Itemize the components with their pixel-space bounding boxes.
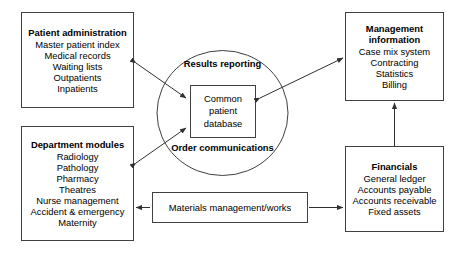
list-item: Billing	[382, 79, 407, 90]
financials-node[interactable]: Financials General ledger Accounts payab…	[345, 146, 444, 232]
list-item: Nurse management	[36, 195, 118, 206]
patient-administration-list: Master patient index Medical records Wai…	[35, 39, 119, 94]
patient-administration-node[interactable]: Patient administration Master patient in…	[21, 12, 134, 108]
department-modules-list: Radiology Pathology Pharmacy Theatres Nu…	[31, 151, 125, 228]
database-line-1: Common	[204, 93, 242, 105]
list-item: Pharmacy	[56, 173, 98, 184]
results-reporting-label: Results reporting	[157, 58, 288, 69]
financials-title: Financials	[372, 161, 418, 172]
list-item: Pathology	[57, 162, 99, 173]
list-item: Accounts receivable	[353, 195, 437, 206]
list-item: Maternity	[58, 217, 97, 228]
list-item: General ledger	[363, 173, 425, 184]
management-information-list: Case mix system Contracting Statistics B…	[359, 46, 430, 90]
list-item: Fixed assets	[368, 206, 421, 217]
common-patient-database-node[interactable]: Common patient database	[190, 85, 256, 138]
list-item: Inpatients	[57, 83, 98, 94]
list-item: Statistics	[376, 68, 414, 79]
list-item: Theatres	[59, 184, 96, 195]
list-item: Outpatients	[54, 72, 102, 83]
list-item: Medical records	[44, 50, 110, 61]
list-item: Radiology	[57, 151, 99, 162]
database-line-2: patient	[209, 105, 237, 117]
materials-management-node[interactable]: Materials management/works	[152, 192, 308, 223]
management-information-title-line2: information	[369, 34, 421, 45]
patient-administration-title: Patient administration	[28, 27, 126, 38]
materials-management-title: Materials management/works	[169, 202, 291, 213]
list-item: Accounts payable	[357, 184, 431, 195]
list-item: Contracting	[371, 57, 419, 68]
hospital-system-diagram: Patient administration Master patient in…	[0, 0, 462, 255]
list-item: Accident & emergency	[31, 206, 125, 217]
management-information-title-line1: Management	[366, 23, 423, 34]
database-line-3: database	[204, 118, 243, 130]
department-modules-title: Department modules	[31, 139, 124, 150]
financials-list: General ledger Accounts payable Accounts…	[353, 173, 437, 217]
order-communications-label: Order communications	[152, 142, 293, 153]
list-item: Case mix system	[359, 46, 430, 57]
management-information-node[interactable]: Management information Case mix system C…	[345, 12, 444, 101]
list-item: Master patient index	[35, 39, 119, 50]
list-item: Waiting lists	[53, 61, 103, 72]
department-modules-node[interactable]: Department modules Radiology Pathology P…	[21, 126, 134, 241]
